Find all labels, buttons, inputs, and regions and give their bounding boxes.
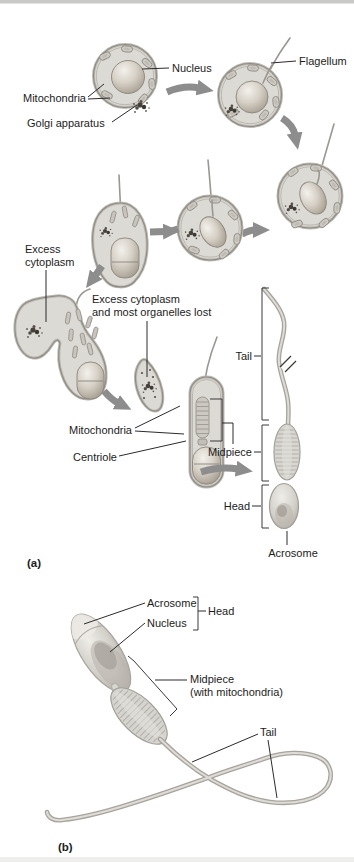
label-excess-cytoplasm-line1: Excess — [25, 243, 61, 255]
process-arrow-4-head — [150, 232, 165, 233]
leader-nucleus-b — [110, 623, 145, 652]
panel-a-tag: (a) — [27, 557, 41, 569]
label-midpiece-b-line2: (with mitochondria) — [190, 686, 283, 698]
label-organelles-lost-line1: Excess cytoplasm — [92, 293, 180, 305]
process-arrow-7 — [201, 468, 238, 472]
label-acrosome-a: Acrosome — [268, 547, 318, 559]
nucleus-cell2 — [236, 81, 268, 113]
spermiogenesis-figure: Nucleus Flagellum Mitochondria Golgi app… — [0, 0, 354, 862]
label-mitochondria-2: Mitochondria — [69, 424, 133, 436]
nucleus-cell6 — [77, 362, 104, 399]
diagram-canvas: Nucleus Flagellum Mitochondria Golgi app… — [0, 0, 354, 862]
sperm-tail — [264, 289, 288, 426]
process-arrow-1 — [167, 87, 199, 92]
label-midpiece-a: Midpiece — [208, 446, 252, 458]
label-flagellum: Flagellum — [299, 55, 347, 67]
centriole — [198, 439, 207, 445]
sperm-b-tail — [47, 739, 331, 820]
label-nucleus-a: Nucleus — [172, 62, 212, 74]
cast-off-cytoplasm — [136, 360, 163, 412]
label-tail-b: Tail — [260, 726, 277, 738]
spermatid-stage-3 — [278, 124, 342, 229]
label-golgi-apparatus: Golgi apparatus — [27, 117, 105, 129]
midpiece-bracket — [262, 425, 269, 481]
label-mitochondria-a: Mitochondria — [23, 92, 87, 104]
scan-artifact-bottom-band — [0, 857, 354, 862]
leader-tail-b-1 — [192, 734, 258, 762]
process-arrow-6 — [104, 391, 118, 403]
late-spermatid-capsule — [190, 337, 223, 487]
label-tail-a: Tail — [235, 350, 252, 362]
leader-mitochondria2-2 — [135, 431, 184, 434]
head-bracket — [262, 485, 269, 528]
process-arrow-3 — [242, 230, 255, 234]
panel-b-tag: (b) — [58, 841, 73, 853]
mature-sperm-vertical — [264, 289, 300, 529]
label-head-a: Head — [224, 500, 250, 512]
nucleus-cell5 — [111, 238, 139, 278]
nucleus-cell1 — [112, 61, 145, 94]
label-organelles-lost-line2: and most organelles lost — [92, 306, 211, 318]
leader-tail-b-2 — [268, 740, 277, 798]
leader-acrosome-b — [84, 603, 145, 624]
label-excess-cytoplasm-line2: cytoplasm — [25, 256, 75, 268]
label-midpiece-b-line1: Midpiece — [190, 673, 234, 685]
label-nucleus-b: Nucleus — [147, 617, 187, 629]
spermatid-stage-1 — [94, 45, 157, 113]
leader-centriole — [119, 441, 186, 456]
process-arrow-2 — [282, 118, 295, 135]
process-arrow-4 — [165, 229, 178, 231]
scan-artifact-top-band — [0, 0, 354, 4]
spermatid-stage-4 — [178, 160, 242, 260]
spermatid-stage-2 — [219, 38, 291, 127]
label-centriole: Centriole — [73, 451, 117, 463]
mitochondrial-sheath — [196, 397, 209, 438]
label-acrosome-b: Acrosome — [147, 597, 197, 609]
label-head-b: Head — [208, 605, 234, 617]
sperm-b-head — [57, 601, 142, 703]
tail-bracket — [262, 288, 269, 420]
